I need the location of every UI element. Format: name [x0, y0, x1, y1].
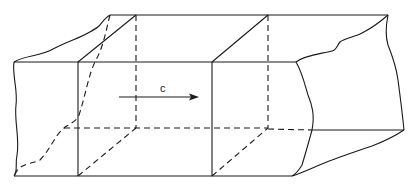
left-torn-top-edge	[14, 15, 110, 62]
left-torn-front-edge	[14, 62, 18, 176]
right-top-diagonal	[212, 15, 268, 62]
left-torn-back-edge	[14, 15, 110, 176]
right-torn-back-edge	[386, 15, 404, 130]
duct-diagram: c	[0, 0, 418, 190]
left-bottom-diagonal	[78, 128, 136, 176]
bottom-back-edge-mid	[268, 129, 312, 130]
right-torn-top-edge	[296, 15, 388, 62]
right-torn-bottom-edge	[292, 130, 404, 176]
right-torn-front-edge	[292, 62, 313, 176]
velocity-label: c	[160, 82, 166, 94]
right-bottom-diagonal	[212, 128, 268, 176]
left-top-diagonal	[78, 15, 136, 62]
